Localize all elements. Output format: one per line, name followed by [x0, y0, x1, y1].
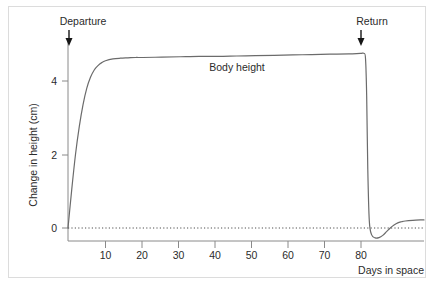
departure-annotation: Departure [60, 15, 107, 46]
return-annotation: Return [356, 15, 388, 46]
y-axis-title: Change in height (cm) [27, 103, 39, 206]
x-tick-label-20: 20 [136, 249, 148, 261]
x-tick-label-30: 30 [173, 249, 185, 261]
y-tick-label-0: 0 [51, 222, 57, 234]
x-tick-label-60: 60 [282, 249, 294, 261]
chart-canvas: 0 2 4 10 20 30 40 50 60 70 80 Days in sp… [0, 0, 435, 287]
x-tick-label-70: 70 [319, 249, 331, 261]
y-tick-label-4: 4 [51, 75, 57, 87]
x-tick-label-80: 80 [355, 249, 367, 261]
return-down-arrow-icon [358, 30, 365, 46]
x-ticks-group: 10 20 30 40 50 60 70 80 [100, 241, 367, 261]
departure-down-arrow-icon [66, 30, 73, 46]
y-ticks-group: 0 2 4 [51, 75, 68, 234]
series-label-body-height: Body height [209, 61, 265, 73]
return-label: Return [356, 15, 388, 27]
x-tick-label-10: 10 [100, 249, 112, 261]
x-tick-label-50: 50 [246, 249, 258, 261]
y-tick-label-2: 2 [51, 149, 57, 161]
body-height-curve [68, 53, 424, 238]
x-tick-label-40: 40 [209, 249, 221, 261]
figure-root: 0 2 4 10 20 30 40 50 60 70 80 Days in sp… [0, 0, 435, 287]
departure-label: Departure [60, 15, 107, 27]
x-axis-title: Days in space [358, 264, 424, 276]
